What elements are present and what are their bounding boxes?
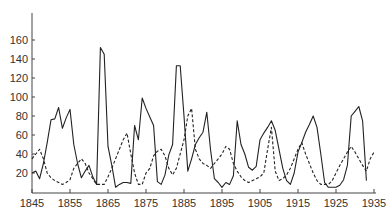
y-tick-label: 100 [10, 91, 28, 103]
y-tick-label: 80 [16, 110, 28, 122]
y-tick-label: 20 [16, 167, 28, 179]
x-tick-label: 1915 [286, 197, 310, 209]
plot-area: 2040608010012014016018451855186518751885… [0, 0, 390, 219]
x-tick-label: 1895 [210, 197, 234, 209]
x-tick-label: 1865 [96, 197, 120, 209]
x-tick-label: 1935 [362, 197, 386, 209]
x-tick-label: 1875 [134, 197, 158, 209]
series-group [32, 48, 374, 188]
x-tick-label: 1845 [20, 197, 44, 209]
x-tick-label: 1905 [248, 197, 272, 209]
x-tick-label: 1925 [324, 197, 348, 209]
axes: 2040608010012014016018451855186518751885… [10, 13, 387, 209]
y-tick-label: 120 [10, 72, 28, 84]
x-tick-label: 1855 [58, 197, 82, 209]
line-chart: 2040608010012014016018451855186518751885… [0, 0, 390, 219]
y-tick-label: 60 [16, 129, 28, 141]
x-tick-label: 1885 [172, 197, 196, 209]
y-tick-label: 160 [10, 34, 28, 46]
y-tick-label: 40 [16, 148, 28, 160]
series-line-solid [32, 48, 366, 188]
y-tick-label: 140 [10, 53, 28, 65]
series-line-dashed [32, 108, 374, 184]
